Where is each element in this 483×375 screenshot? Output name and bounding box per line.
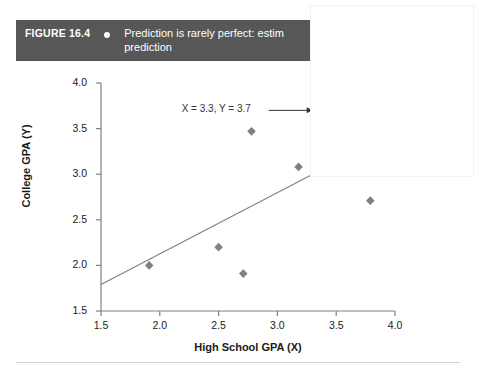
bullet-dot-icon xyxy=(104,32,110,38)
data-point-marker xyxy=(294,163,303,172)
data-point-marker xyxy=(366,196,375,205)
y-axis-title: College GPA (Y) xyxy=(20,96,32,236)
figure-number-label: FIGURE 16.4 xyxy=(25,26,90,39)
y-tick-label: 3.0 xyxy=(53,167,87,179)
data-point-marker xyxy=(145,261,154,270)
point-annotation-label: X = 3.3, Y = 3.7 xyxy=(182,103,251,114)
white-overlay-panel xyxy=(311,6,473,176)
x-tick-label: 2.5 xyxy=(199,319,239,331)
data-point-marker xyxy=(214,243,223,252)
figure-caption-text: Prediction is rarely perfect: estim pred… xyxy=(124,26,284,54)
y-tick-label: 3.5 xyxy=(53,122,87,134)
y-tick-label: 2.0 xyxy=(53,258,87,270)
data-point-marker xyxy=(247,127,256,136)
y-tick-label: 4.0 xyxy=(53,76,87,88)
x-tick-label: 3.0 xyxy=(257,319,297,331)
data-point-marker xyxy=(239,269,248,278)
x-tick-label: 1.5 xyxy=(81,319,121,331)
x-tick-label: 2.0 xyxy=(140,319,180,331)
x-axis-title: High School GPA (X) xyxy=(101,341,395,353)
figure-caption-bar: FIGURE 16.4 Prediction is rarely perfect… xyxy=(16,20,329,61)
x-tick-label: 3.5 xyxy=(316,319,356,331)
y-tick-label: 2.5 xyxy=(53,213,87,225)
y-tick-label: 1.5 xyxy=(53,304,87,316)
x-tick-label: 4.0 xyxy=(375,319,415,331)
bottom-divider xyxy=(16,362,460,363)
